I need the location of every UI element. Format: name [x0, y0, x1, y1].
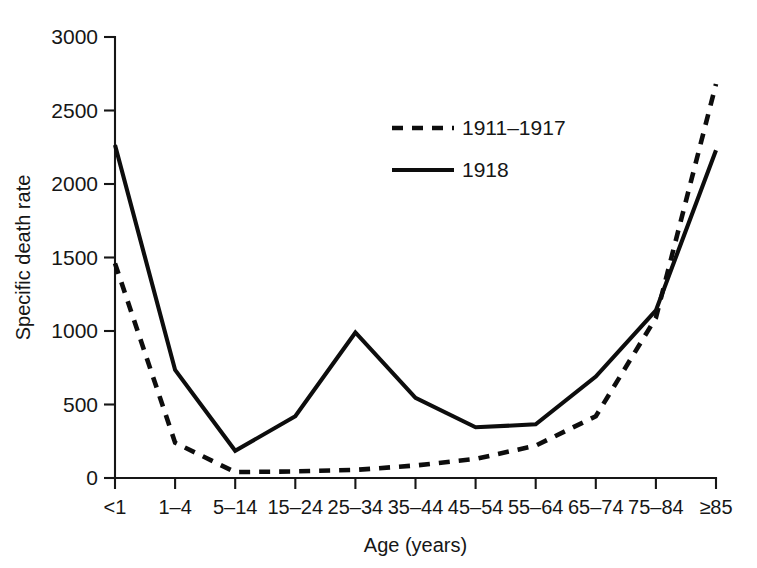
x-tick-label: 25–34	[328, 496, 384, 518]
x-tick-label: 65–74	[568, 496, 624, 518]
line-chart: 050010001500200025003000<11–45–1415–2425…	[0, 0, 757, 568]
x-tick-label: 5–14	[213, 496, 258, 518]
x-tick-label: 35–44	[388, 496, 444, 518]
y-axis-title: Specific death rate	[12, 175, 34, 341]
legend-label: 1911–1917	[462, 116, 566, 139]
y-tick-label: 2000	[51, 172, 98, 195]
y-tick-label: 1000	[51, 319, 98, 342]
y-tick-label: 1500	[51, 246, 98, 269]
x-tick-label: 1–4	[158, 496, 191, 518]
series-line-1918	[115, 145, 716, 451]
series-line-1911-1917	[115, 84, 716, 472]
legend-label: 1918	[462, 158, 509, 181]
x-tick-label: 75–84	[628, 496, 684, 518]
chart-figure: 050010001500200025003000<11–45–1415–2425…	[0, 0, 757, 568]
y-tick-label: 500	[63, 393, 98, 416]
x-axis-title: Age (years)	[364, 534, 467, 556]
x-tick-label: 55–64	[508, 496, 564, 518]
y-tick-label: 3000	[51, 25, 98, 48]
y-tick-label: 2500	[51, 99, 98, 122]
x-tick-label: 15–24	[267, 496, 323, 518]
x-tick-label: 45–54	[448, 496, 504, 518]
x-tick-label: ≥85	[699, 496, 732, 518]
x-tick-label: <1	[104, 496, 127, 518]
y-tick-label: 0	[86, 466, 98, 489]
